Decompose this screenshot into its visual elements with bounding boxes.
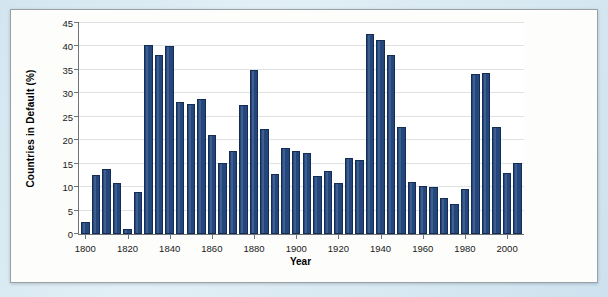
bar xyxy=(250,70,258,234)
x-tick xyxy=(85,234,86,239)
x-axis-title: Year xyxy=(78,256,523,267)
figure-panel: Countries in Default (%) 051015202530354… xyxy=(10,9,598,283)
bar xyxy=(366,34,374,234)
y-axis-title-text: Countries in Default (%) xyxy=(25,69,36,187)
x-tick-label: 1860 xyxy=(201,243,222,254)
x-tick xyxy=(212,234,213,239)
x-tick-label: 1980 xyxy=(454,243,475,254)
y-axis-title: Countries in Default (%) xyxy=(23,23,37,234)
x-tick-label: 1940 xyxy=(370,243,391,254)
bar xyxy=(113,183,121,234)
y-tick xyxy=(74,116,79,117)
bar xyxy=(218,163,226,234)
x-tick xyxy=(423,234,424,239)
y-tick xyxy=(74,210,79,211)
bar xyxy=(313,176,321,234)
y-tick xyxy=(74,92,79,93)
y-tick xyxy=(74,139,79,140)
bar xyxy=(102,169,110,234)
y-tick-label: 15 xyxy=(43,158,73,169)
bar xyxy=(376,40,384,234)
bar xyxy=(450,204,458,234)
x-tick xyxy=(381,234,382,239)
bar xyxy=(503,173,511,234)
x-tick-label: 1880 xyxy=(243,243,264,254)
x-tick-label: 1960 xyxy=(412,243,433,254)
y-tick-label: 45 xyxy=(43,18,73,29)
bar xyxy=(271,174,279,234)
x-tick-label: 2000 xyxy=(497,243,518,254)
bar xyxy=(260,129,268,234)
bar xyxy=(387,55,395,234)
y-tick xyxy=(74,69,79,70)
bar xyxy=(397,127,405,234)
bar xyxy=(155,55,163,234)
x-tick-label: 1900 xyxy=(286,243,307,254)
x-tick xyxy=(170,234,171,239)
bar xyxy=(492,127,500,234)
y-tick-label: 40 xyxy=(43,41,73,52)
chart-area: Countries in Default (%) 051015202530354… xyxy=(11,10,597,282)
x-tick xyxy=(128,234,129,239)
bar xyxy=(513,163,521,234)
gridline xyxy=(79,22,524,23)
bar xyxy=(144,45,152,234)
y-tick xyxy=(74,233,79,234)
bar xyxy=(440,198,448,234)
y-tick-label: 20 xyxy=(43,135,73,146)
bar xyxy=(408,182,416,234)
bar xyxy=(165,46,173,234)
bar xyxy=(197,99,205,234)
y-tick-label: 0 xyxy=(43,229,73,240)
bar xyxy=(429,187,437,234)
bar xyxy=(419,186,427,234)
bar xyxy=(81,222,89,234)
bar xyxy=(303,153,311,234)
bar xyxy=(208,135,216,234)
x-tick-label: 1820 xyxy=(117,243,138,254)
bar xyxy=(471,74,479,234)
y-tick xyxy=(74,22,79,23)
bar xyxy=(123,229,131,234)
bar xyxy=(229,151,237,234)
x-tick-label: 1800 xyxy=(75,243,96,254)
bar xyxy=(134,192,142,234)
x-tick xyxy=(507,234,508,239)
bar xyxy=(482,73,490,234)
x-tick xyxy=(296,234,297,239)
bar xyxy=(239,105,247,234)
x-tick xyxy=(338,234,339,239)
x-tick xyxy=(465,234,466,239)
y-tick xyxy=(74,163,79,164)
bar xyxy=(334,183,342,234)
y-tick-label: 35 xyxy=(43,64,73,75)
x-tick-label: 1920 xyxy=(328,243,349,254)
bar xyxy=(187,104,195,234)
y-tick-label: 25 xyxy=(43,111,73,122)
y-tick-label: 10 xyxy=(43,182,73,193)
x-tick-label: 1840 xyxy=(159,243,180,254)
bar xyxy=(281,148,289,234)
plot-region: 051015202530354045 180018201840186018801… xyxy=(78,23,524,235)
bar xyxy=(355,160,363,234)
y-tick-label: 30 xyxy=(43,88,73,99)
y-tick xyxy=(74,45,79,46)
y-tick-label: 5 xyxy=(43,205,73,216)
x-tick xyxy=(254,234,255,239)
bar xyxy=(324,171,332,234)
y-tick xyxy=(74,186,79,187)
bar xyxy=(345,158,353,234)
bar xyxy=(92,175,100,234)
bar xyxy=(461,189,469,234)
bar xyxy=(176,102,184,234)
bar xyxy=(292,151,300,234)
